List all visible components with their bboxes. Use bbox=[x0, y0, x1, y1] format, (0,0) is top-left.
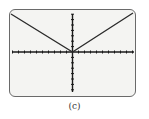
figure-caption: (c) bbox=[0, 101, 149, 111]
